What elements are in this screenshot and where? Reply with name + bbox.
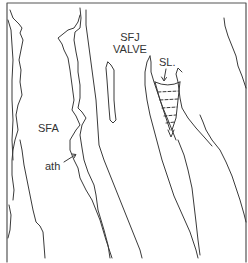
right-wall-lower xyxy=(200,115,246,222)
sfa-wall xyxy=(20,140,45,258)
right-mid-wall xyxy=(178,140,200,255)
right-wall-upper xyxy=(224,18,246,88)
label-sfa: SFA xyxy=(38,122,59,134)
sl-vessel-right xyxy=(176,68,212,146)
label-sl: SL. xyxy=(159,56,176,68)
venous-ultrasound-diagram: SFJ VALVE SFA ath SL. xyxy=(0,0,248,263)
sludge-layer-1 xyxy=(158,91,179,92)
sl-vessel-lumen-left xyxy=(150,56,176,140)
sludge-layer-2 xyxy=(160,99,178,100)
label-ath: ath xyxy=(45,160,60,172)
sludge-funnel-right xyxy=(172,82,180,130)
sludge-top xyxy=(155,82,180,85)
label-sfj-valve: SFJ VALVE xyxy=(107,31,153,55)
left-small-loop xyxy=(8,205,11,238)
plaque-left xyxy=(58,15,112,258)
label-valve: VALVE xyxy=(107,43,153,55)
sludge-layer-3 xyxy=(162,107,177,108)
sl-vessel-left xyxy=(145,56,198,258)
label-sfj: SFJ xyxy=(107,31,153,43)
sfj-valve-cusp xyxy=(106,62,116,123)
left-wall-inner xyxy=(8,20,13,160)
plaque-right xyxy=(74,8,110,258)
